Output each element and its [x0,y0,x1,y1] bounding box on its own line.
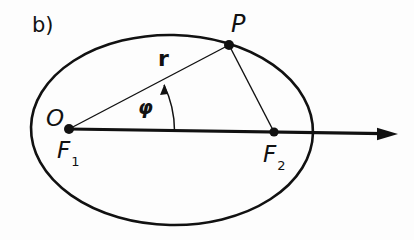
focus-f2-letter: F [263,141,276,167]
point-p-label: P [231,12,245,36]
point-f2-dot [269,127,278,136]
focus-f1-label: F1 [57,139,79,162]
panel-label: b) [32,15,54,36]
focus-f1-letter: F [57,137,70,163]
radius-label: r [158,48,169,70]
major-axis-line [69,129,384,134]
angle-phi-label: φ [138,98,153,117]
focus-f1-subscript: 1 [71,154,79,169]
focus-f2-label: F2 [263,143,285,166]
axis-arrowhead-icon [377,128,398,140]
point-f1-dot [64,124,74,134]
ellipse-orbit-diagram: b) P O F1 F2 r φ [0,0,414,240]
p-to-f2-line [229,45,274,132]
focus-f2-subscript: 2 [277,158,285,173]
origin-o-label: O [46,107,64,130]
point-p-dot [224,40,234,50]
